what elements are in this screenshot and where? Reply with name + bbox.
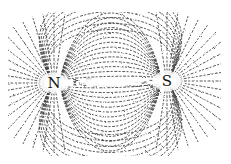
south-pole-label: S: [162, 74, 172, 89]
north-pole-label: N: [47, 76, 60, 91]
center-gap-glow: [80, 77, 140, 87]
